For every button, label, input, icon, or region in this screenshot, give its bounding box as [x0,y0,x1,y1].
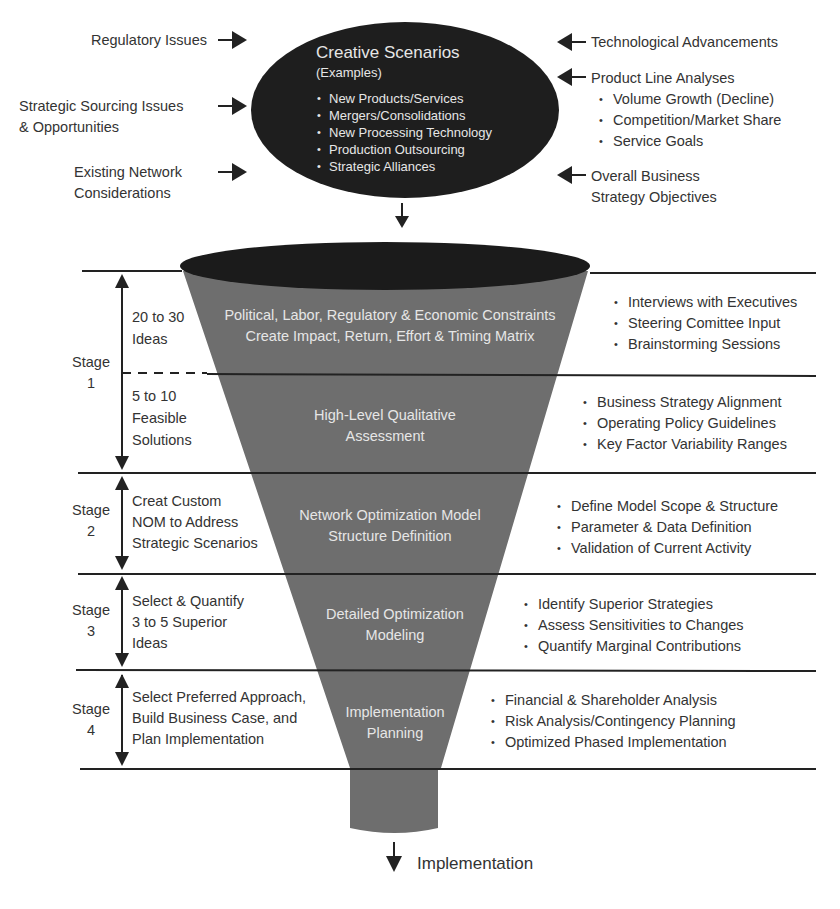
step-4-desc: Select & Quantify3 to 5 SuperiorIdeas [132,591,244,654]
funnel-step-5: ImplementationPlanning [315,702,475,744]
list-item: Production Outsourcing [317,141,492,158]
implementation-arrow-icon [386,842,402,872]
input-business-strategy: Overall BusinessStrategy Objectives [591,166,717,208]
output-label: Implementation [417,855,533,873]
stage-range-arrows [115,274,129,766]
input-existing-network: Existing NetworkConsiderations [74,162,182,204]
input-technological: Technological Advancements [591,33,778,51]
list-item: Mergers/Consolidations [317,107,492,124]
input-regulatory: Regulatory Issues [91,31,207,49]
list-item: Validation of Current Activity [557,538,778,559]
stage-4-label: Stage4 [66,699,116,741]
funnel-step-4: Detailed OptimizationModeling [300,604,490,646]
list-item: Identify Superior Strategies [524,594,744,615]
list-item: Assess Sensitivities to Changes [524,615,744,636]
stage-2-label: Stage2 [66,500,116,542]
list-item: Service Goals [599,131,781,152]
step-1-desc: 20 to 30Ideas [132,306,184,350]
ellipse-title: Creative Scenarios [316,44,460,62]
list-item: New Processing Technology [317,124,492,141]
step-5-bullets: Financial & Shareholder Analysis Risk An… [491,690,736,753]
list-item: Volume Growth (Decline) [599,89,781,110]
list-item: Brainstorming Sessions [614,334,797,355]
step-4-bullets: Identify Superior Strategies Assess Sens… [524,594,744,657]
list-item: Strategic Alliances [317,158,492,175]
down-arrow-icon [395,203,409,228]
list-item: Risk Analysis/Contingency Planning [491,711,736,732]
step-5-desc: Select Preferred Approach,Build Business… [132,687,306,750]
input-product-line: Product Line Analyses Volume Growth (Dec… [591,68,781,152]
right-input-arrows [557,33,586,184]
list-item: Optimized Phased Implementation [491,732,736,753]
step-2-bullets: Business Strategy Alignment Operating Po… [583,392,787,455]
list-item: Define Model Scope & Structure [557,496,778,517]
funnel-step-3: Network Optimization ModelStructure Defi… [280,505,500,547]
list-item: Steering Comittee Input [614,313,797,334]
list-item: Operating Policy Guidelines [583,413,787,434]
list-item: Key Factor Variability Ranges [583,434,787,455]
step-3-bullets: Define Model Scope & Structure Parameter… [557,496,778,559]
funnel-step-1: Political, Labor, Regulatory & Economic … [185,305,595,347]
step-1-bullets: Interviews with Executives Steering Comi… [614,292,797,355]
list-item: Financial & Shareholder Analysis [491,690,736,711]
list-item: New Products/Services [317,90,492,107]
list-item: Parameter & Data Definition [557,517,778,538]
ellipse-list: New Products/Services Mergers/Consolidat… [317,90,492,175]
left-input-arrows [218,31,247,181]
list-item: Quantify Marginal Contributions [524,636,744,657]
funnel-step-2: High-Level QualitativeAssessment [280,405,490,447]
step-3-desc: Creat CustomNOM to AddressStrategic Scen… [132,491,258,554]
stage-1-label: Stage1 [66,352,116,394]
list-item: Interviews with Executives [614,292,797,313]
step-2-desc: 5 to 10FeasibleSolutions [132,385,192,451]
funnel-top-ellipse [180,242,590,290]
stage-3-label: Stage3 [66,600,116,642]
list-item: Business Strategy Alignment [583,392,787,413]
input-strategic-sourcing: Strategic Sourcing Issues& Opportunities [19,96,183,138]
list-item: Competition/Market Share [599,110,781,131]
ellipse-subtitle: (Examples) [316,64,382,82]
